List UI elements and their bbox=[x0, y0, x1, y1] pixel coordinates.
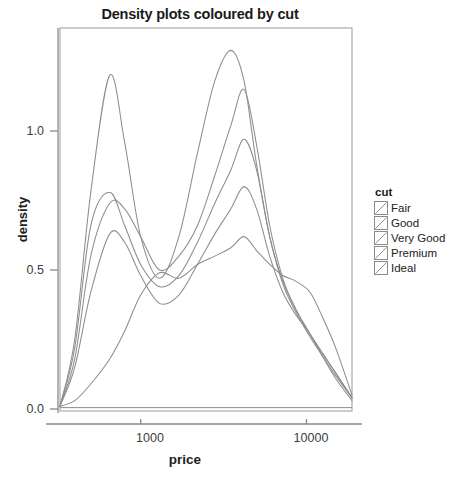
legend-key-icon bbox=[374, 216, 388, 230]
legend-item-very-good[interactable]: Very Good bbox=[374, 230, 452, 245]
curve-layer bbox=[60, 50, 352, 407]
legend-items: FairGoodVery GoodPremiumIdeal bbox=[374, 200, 452, 275]
axis-layer bbox=[46, 28, 362, 424]
legend-item-premium[interactable]: Premium bbox=[374, 245, 452, 260]
legend-key-icon bbox=[374, 261, 388, 275]
legend: cut FairGoodVery GoodPremiumIdeal bbox=[374, 186, 452, 275]
y-axis-title: density bbox=[15, 180, 30, 260]
density-curve-good bbox=[60, 187, 352, 407]
y-tick-label-1: 1.0 bbox=[8, 124, 44, 138]
legend-item-fair[interactable]: Fair bbox=[374, 200, 452, 215]
legend-item-label: Good bbox=[388, 217, 419, 229]
density-curve-fair bbox=[60, 237, 352, 407]
legend-key-icon bbox=[374, 231, 388, 245]
x-tick-label-2: 10000 bbox=[276, 431, 346, 445]
legend-item-ideal[interactable]: Ideal bbox=[374, 260, 452, 275]
legend-item-label: Fair bbox=[388, 202, 411, 214]
legend-item-good[interactable]: Good bbox=[374, 215, 452, 230]
legend-item-label: Ideal bbox=[388, 262, 416, 274]
legend-title: cut bbox=[374, 186, 452, 198]
legend-key-icon bbox=[374, 246, 388, 260]
density-curve-ideal bbox=[60, 50, 352, 406]
density-plot-figure: Density plots coloured by cut density pr… bbox=[0, 0, 455, 491]
x-tick-label-1: 1000 bbox=[115, 431, 185, 445]
legend-item-label: Premium bbox=[388, 247, 437, 259]
legend-key-icon bbox=[374, 201, 388, 215]
y-tick-label-2: 0.5 bbox=[8, 263, 44, 277]
density-curve-very-good bbox=[60, 139, 352, 406]
legend-item-label: Very Good bbox=[388, 232, 445, 244]
y-tick-label-3: 0.0 bbox=[8, 402, 44, 416]
panel-border bbox=[60, 28, 352, 411]
x-axis-title: price bbox=[140, 452, 230, 467]
